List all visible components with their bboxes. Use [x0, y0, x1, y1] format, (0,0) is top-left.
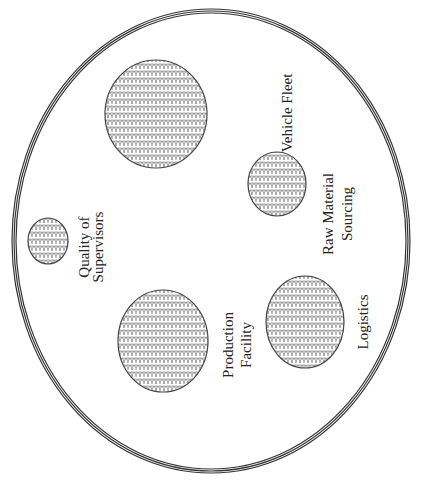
production-facility-circle [118, 290, 208, 392]
raw-material-sourcing-circle [248, 152, 306, 216]
raw-material-label-line2: Sourcing [339, 186, 355, 241]
raw-material-label-line1: Raw Material [320, 173, 336, 255]
quality-of-supervisors-circle [28, 218, 68, 264]
quality-label-line2: Supervisors [90, 211, 106, 282]
bubble-vehicle-fleet: Vehicle Fleet [105, 60, 295, 168]
diagram-canvas: Vehicle Fleet Raw Material Sourcing Qual… [0, 0, 421, 501]
vehicle-fleet-circle [105, 60, 207, 168]
bubble-production-facility: Production Facility [118, 290, 254, 392]
logistics-label: Logistics [355, 294, 371, 349]
logistics-circle [266, 276, 344, 368]
bubble-raw-material-sourcing: Raw Material Sourcing [248, 152, 355, 255]
bubble-quality-of-supervisors: Quality of Supervisors [28, 211, 106, 282]
production-label-line2: Facility [238, 322, 254, 368]
bubble-logistics: Logistics [266, 276, 371, 368]
vehicle-fleet-label: Vehicle Fleet [279, 73, 295, 153]
production-label-line1: Production [220, 312, 236, 378]
